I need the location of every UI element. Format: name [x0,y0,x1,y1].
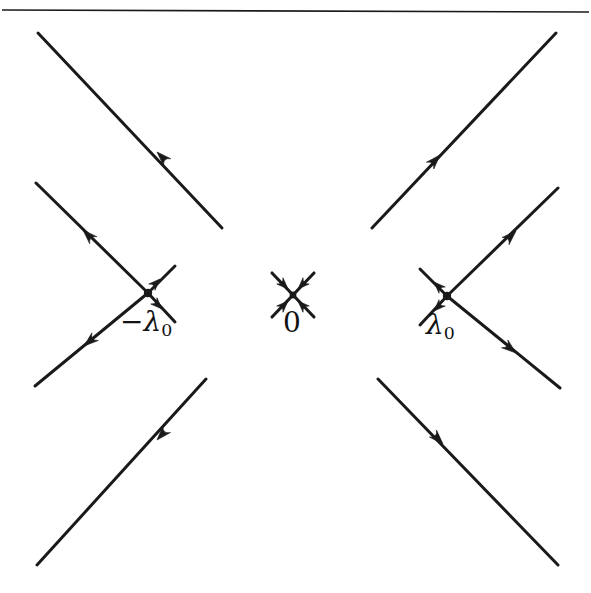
singular-point--lambda0 [144,289,152,297]
singular-point-zero [290,292,297,299]
phase-diagram-svg [0,0,591,593]
singular-point-lambda0 [443,292,451,300]
figure-container: −λ0 0 λ0 [0,0,591,593]
